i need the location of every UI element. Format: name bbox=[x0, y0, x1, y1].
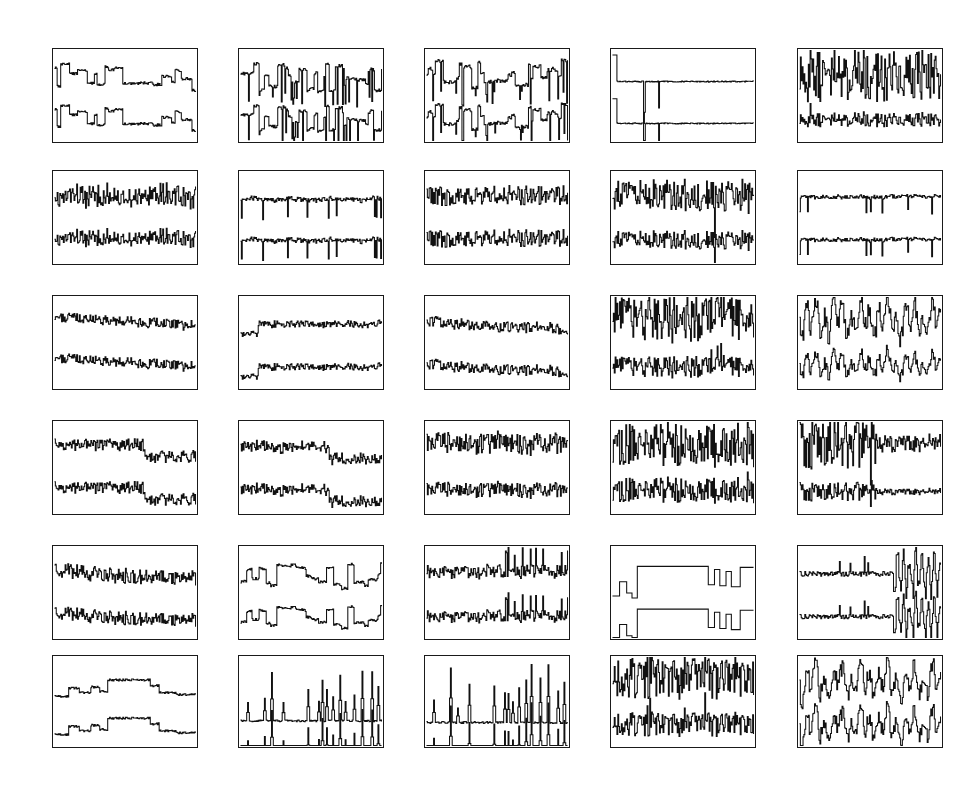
trace-line-reconstructed-signal bbox=[54, 105, 195, 132]
panel-plot-area bbox=[425, 546, 569, 639]
trace-line-reconstructed-signal bbox=[612, 693, 753, 737]
trace-line-reconstructed-signal bbox=[426, 359, 567, 377]
signal-panel-r3c2 bbox=[238, 295, 384, 390]
trace-line-observed-signal bbox=[54, 439, 195, 463]
trace-line-observed-signal bbox=[799, 194, 940, 213]
trace-line-observed-signal bbox=[426, 431, 567, 456]
trace-line-observed-signal bbox=[54, 183, 195, 209]
panel-plot-area bbox=[53, 171, 197, 264]
trace-line-reconstructed-signal bbox=[54, 228, 195, 247]
trace-line-observed-signal bbox=[426, 186, 567, 206]
trace-line-reconstructed-signal bbox=[799, 345, 940, 381]
signal-panel-r3c3 bbox=[424, 295, 570, 390]
signal-panel-r4c4 bbox=[610, 420, 756, 515]
trace-line-observed-signal bbox=[799, 657, 940, 708]
signal-panel-r3c5 bbox=[797, 295, 943, 390]
signal-panel-r5c4 bbox=[610, 545, 756, 640]
signal-panel-r6c2 bbox=[238, 655, 384, 748]
panel-plot-area bbox=[239, 49, 383, 142]
trace-line-observed-signal bbox=[612, 55, 753, 123]
signal-panel-r5c2 bbox=[238, 545, 384, 640]
panel-plot-area bbox=[239, 171, 383, 264]
panel-plot-area bbox=[425, 421, 569, 514]
panel-plot-area bbox=[425, 656, 569, 747]
trace-line-observed-signal bbox=[54, 564, 195, 586]
trace-line-reconstructed-signal bbox=[612, 99, 753, 141]
trace-line-observed-signal bbox=[240, 563, 381, 590]
signal-panel-r6c4 bbox=[610, 655, 756, 748]
panel-plot-area bbox=[53, 656, 197, 747]
trace-line-observed-signal bbox=[612, 566, 753, 598]
trace-line-reconstructed-signal bbox=[426, 593, 567, 623]
signal-panel-r4c2 bbox=[238, 420, 384, 515]
panel-plot-area bbox=[798, 546, 942, 639]
trace-line-reconstructed-signal bbox=[799, 591, 940, 637]
trace-line-observed-signal bbox=[612, 297, 753, 342]
panel-plot-area bbox=[239, 421, 383, 514]
signal-panel-r3c1 bbox=[52, 295, 198, 390]
signal-panel-r5c1 bbox=[52, 545, 198, 640]
signal-panel-r5c3 bbox=[424, 545, 570, 640]
trace-line-reconstructed-signal bbox=[54, 717, 195, 735]
trace-line-reconstructed-signal bbox=[799, 702, 940, 746]
trace-line-reconstructed-signal bbox=[240, 605, 381, 629]
panel-plot-area bbox=[798, 296, 942, 389]
panel-plot-area bbox=[239, 546, 383, 639]
panel-plot-area bbox=[239, 656, 383, 747]
trace-line-reconstructed-signal bbox=[799, 237, 940, 256]
panel-plot-area bbox=[611, 171, 755, 264]
trace-line-observed-signal bbox=[240, 671, 381, 722]
panel-plot-area bbox=[798, 49, 942, 142]
trace-line-reconstructed-signal bbox=[54, 354, 195, 371]
signal-panel-grid-figure bbox=[0, 0, 971, 793]
signal-panel-r1c5 bbox=[797, 48, 943, 143]
signal-panel-r6c3 bbox=[424, 655, 570, 748]
panel-plot-area bbox=[611, 296, 755, 389]
panel-plot-area bbox=[53, 49, 197, 142]
trace-line-observed-signal bbox=[426, 547, 567, 578]
panel-plot-area bbox=[239, 296, 383, 389]
signal-panel-r4c3 bbox=[424, 420, 570, 515]
trace-line-observed-signal bbox=[240, 440, 381, 464]
panel-plot-area bbox=[425, 296, 569, 389]
panel-plot-area bbox=[53, 546, 197, 639]
trace-line-observed-signal bbox=[799, 547, 940, 599]
signal-panel-r2c2 bbox=[238, 170, 384, 265]
signal-panel-r1c1 bbox=[52, 48, 198, 143]
trace-line-observed-signal bbox=[612, 422, 753, 467]
trace-line-reconstructed-signal bbox=[612, 344, 753, 378]
trace-line-observed-signal bbox=[799, 50, 940, 101]
signal-panel-r2c4 bbox=[610, 170, 756, 265]
signal-panel-r2c3 bbox=[424, 170, 570, 265]
panel-plot-area bbox=[798, 171, 942, 264]
trace-line-reconstructed-signal bbox=[54, 481, 195, 505]
trace-line-reconstructed-signal bbox=[612, 231, 753, 263]
trace-line-reconstructed-signal bbox=[426, 703, 567, 746]
panel-plot-area bbox=[798, 656, 942, 747]
trace-line-observed-signal bbox=[612, 657, 753, 699]
signal-panel-r2c5 bbox=[797, 170, 943, 265]
signal-panel-r1c2 bbox=[238, 48, 384, 143]
trace-line-reconstructed-signal bbox=[799, 104, 940, 127]
signal-panel-r6c5 bbox=[797, 655, 943, 748]
panel-plot-area bbox=[611, 49, 755, 142]
signal-panel-r4c1 bbox=[52, 420, 198, 515]
trace-line-observed-signal bbox=[426, 665, 567, 724]
trace-line-observed-signal bbox=[54, 679, 195, 697]
trace-line-observed-signal bbox=[54, 63, 195, 91]
panel-plot-area bbox=[53, 296, 197, 389]
trace-line-reconstructed-signal bbox=[54, 607, 195, 627]
trace-line-reconstructed-signal bbox=[426, 103, 567, 141]
trace-line-observed-signal bbox=[240, 320, 381, 337]
panel-plot-area bbox=[425, 171, 569, 264]
trace-line-reconstructed-signal bbox=[240, 363, 381, 380]
trace-line-observed-signal bbox=[240, 196, 381, 220]
signal-panel-r6c1 bbox=[52, 655, 198, 748]
trace-line-observed-signal bbox=[612, 179, 753, 237]
trace-line-reconstructed-signal bbox=[240, 709, 381, 745]
signal-panel-r3c4 bbox=[610, 295, 756, 390]
trace-line-observed-signal bbox=[240, 62, 381, 107]
panel-plot-area bbox=[611, 546, 755, 639]
trace-line-reconstructed-signal bbox=[240, 483, 381, 507]
panel-plot-area bbox=[611, 421, 755, 514]
